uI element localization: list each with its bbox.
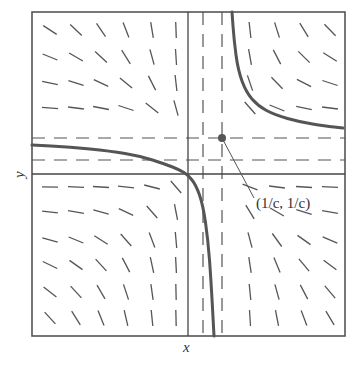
- slope-segment: [300, 23, 308, 37]
- slope-segment: [68, 211, 84, 214]
- label-leader-line: [222, 138, 254, 198]
- slope-segment: [149, 233, 155, 248]
- slope-segment: [326, 311, 334, 325]
- slope-segment: [69, 53, 83, 61]
- slope-segment: [96, 259, 107, 271]
- slope-segment: [273, 50, 280, 64]
- slope-segment: [97, 285, 105, 299]
- slope-segment: [298, 51, 309, 62]
- slope-segment: [249, 257, 251, 273]
- slope-segment: [245, 102, 256, 114]
- slope-segment: [95, 52, 107, 63]
- slope-segment: [122, 50, 131, 64]
- slope-segment: [147, 206, 158, 218]
- slope-segment: [68, 187, 84, 188]
- slope-segment: [70, 25, 82, 36]
- slope-segment: [175, 204, 178, 220]
- slope-segment: [243, 184, 258, 190]
- slope-segment: [94, 80, 108, 87]
- slope-segment: [72, 311, 81, 325]
- slope-segment: [43, 262, 57, 269]
- slope-segment: [272, 234, 281, 247]
- slope-segment: [274, 258, 280, 273]
- slope-segment: [322, 187, 338, 188]
- slope-segment: [71, 286, 82, 298]
- slope-segment: [98, 311, 104, 326]
- slope-segment: [174, 100, 178, 115]
- slope-segment: [93, 187, 109, 188]
- slope-segment: [124, 284, 129, 299]
- slope-segment: [323, 53, 337, 61]
- slope-segment: [121, 234, 132, 246]
- slope-segment: [150, 257, 153, 273]
- slope-segment: [249, 284, 251, 300]
- slope-field-diagram: (1/c, 1/c) x y: [0, 0, 357, 365]
- equilibrium-label: (1/c, 1/c): [256, 195, 310, 212]
- slope-segment: [299, 259, 309, 271]
- slope-segment: [271, 77, 282, 88]
- slope-segment: [301, 311, 307, 326]
- slope-segment: [124, 310, 128, 326]
- slope-segment: [119, 209, 133, 216]
- slope-segment: [175, 75, 177, 91]
- slope-segment: [297, 79, 311, 86]
- slope-segment: [42, 107, 58, 108]
- slope-segment: [322, 107, 338, 109]
- slope-segment: [275, 284, 279, 299]
- slope-segment: [249, 22, 251, 38]
- slope-segment: [97, 23, 106, 36]
- slope-segment: [248, 232, 252, 247]
- slope-segment: [322, 211, 338, 214]
- slope-segment: [175, 232, 176, 248]
- slope-segment: [69, 237, 84, 243]
- slope-segment: [270, 105, 285, 111]
- slope-segment: [325, 286, 335, 298]
- slope-segment: [171, 181, 181, 193]
- slope-segment: [250, 310, 251, 326]
- x-axis-label: x: [182, 339, 190, 355]
- slope-segment: [122, 258, 129, 272]
- slope-segment: [45, 312, 56, 324]
- slope-segment: [144, 185, 160, 189]
- slope-segment: [93, 210, 108, 214]
- slope-segment: [43, 54, 58, 60]
- slope-segment: [43, 26, 56, 35]
- slope-segment: [146, 103, 159, 113]
- slope-segment: [118, 106, 133, 111]
- slope-segment: [120, 78, 132, 88]
- slope-segment: [148, 76, 155, 90]
- slope-segment: [298, 235, 311, 244]
- slope-segment: [269, 186, 285, 188]
- slope-segment: [322, 81, 337, 86]
- slope-segment: [151, 22, 154, 38]
- slope-segment: [93, 107, 109, 110]
- slope-segment: [70, 260, 83, 269]
- slope-segment: [246, 205, 254, 219]
- slope-segment: [324, 24, 335, 35]
- slope-segment: [123, 23, 129, 38]
- slope-segment: [276, 310, 279, 326]
- y-axis-label: y: [11, 171, 27, 180]
- slope-segment: [42, 211, 58, 213]
- slope-segment: [176, 49, 177, 65]
- slope-segment: [296, 106, 312, 109]
- slope-segment: [323, 237, 338, 243]
- slope-segment: [68, 107, 84, 109]
- slope-segment: [247, 75, 252, 90]
- slope-segment: [176, 257, 177, 273]
- slope-segment: [68, 81, 83, 86]
- upper-right-branch-curve: [232, 12, 343, 128]
- slope-segment: [324, 260, 337, 270]
- slope-segment: [118, 186, 134, 188]
- slope-segment: [42, 81, 58, 84]
- slope-segment: [94, 236, 107, 245]
- slope-segment: [275, 22, 280, 37]
- slope-segment: [44, 287, 57, 297]
- slope-segment: [176, 22, 177, 38]
- slope-segment: [300, 285, 307, 299]
- slope-segment: [296, 187, 312, 188]
- slope-segment: [249, 49, 252, 65]
- slope-segment: [151, 310, 153, 326]
- equilibrium-point: [218, 134, 226, 142]
- slope-segment: [42, 238, 57, 242]
